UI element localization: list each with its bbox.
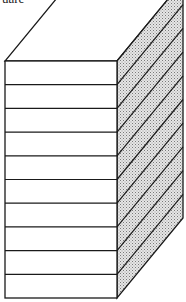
stacked-block-diagram: uare — [0, 0, 186, 302]
block-drawing — [0, 0, 186, 302]
